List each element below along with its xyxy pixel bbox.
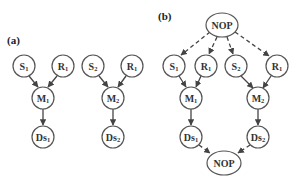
node-s1: S1 <box>13 55 35 77</box>
node-nop-top: NOP <box>206 13 238 37</box>
node-r1b: R1 <box>266 55 288 77</box>
edge-s1-m1 <box>179 76 186 87</box>
node-ds2: Ds2 <box>247 126 269 148</box>
node-m1: M1 <box>180 87 202 109</box>
node-r1: R1 <box>52 55 74 77</box>
diagram-canvas: (a) S1 R1 M1 Ds1 S2 <box>0 0 307 189</box>
edge-r1a-m1 <box>196 76 201 87</box>
edge-ds2-nop <box>238 145 250 153</box>
node-nop-bottom: NOP <box>207 151 241 175</box>
node-s2: S2 <box>82 55 104 77</box>
node-s1: S1 <box>163 55 185 77</box>
edge-r1b-m2 <box>263 76 271 88</box>
panel-a-label: (a) <box>7 34 20 47</box>
edge-ds1-nop <box>199 145 210 153</box>
node-m2: M2 <box>102 87 124 109</box>
node-ds1: Ds1 <box>32 126 54 148</box>
node-m2: M2 <box>247 87 269 109</box>
panel-a: (a) S1 R1 M1 Ds1 S2 <box>7 34 143 148</box>
node-r1-second: R1 <box>121 55 143 77</box>
node-ds2: Ds2 <box>102 126 124 148</box>
panel-b: (b) NOP S1 R1 S2 <box>158 10 288 175</box>
svg-text:NOP: NOP <box>213 158 234 169</box>
edge-nop-r1b <box>235 32 269 56</box>
edge-s2-m2 <box>99 76 108 87</box>
node-ds1: Ds1 <box>180 126 202 148</box>
edge-r1-m1 <box>48 76 57 87</box>
node-s2: S2 <box>225 55 247 77</box>
edge-nop-s1 <box>181 32 210 55</box>
edge-s2-m2 <box>241 76 253 88</box>
panel-b-label: (b) <box>158 10 172 23</box>
svg-text:NOP: NOP <box>211 20 232 31</box>
edge-nop-r1a <box>209 37 217 54</box>
edge-s1-m1 <box>29 76 38 87</box>
edge-r1-m2 <box>118 76 126 87</box>
node-m1: M1 <box>32 87 54 109</box>
node-r1a: R1 <box>195 55 217 77</box>
edge-nop-s2 <box>227 37 233 54</box>
